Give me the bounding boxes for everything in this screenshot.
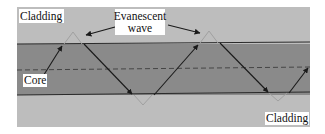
evanescent-label-line2: wave — [128, 22, 152, 34]
fiber-diagram: Cladding Evanescent wave Core Cladding — [0, 0, 325, 134]
cladding-top-label: Cladding — [20, 10, 62, 23]
core-label: Core — [24, 74, 46, 86]
evanescent-label-line1: Evanescent — [114, 10, 167, 22]
cladding-bottom-label: Cladding — [266, 112, 308, 125]
